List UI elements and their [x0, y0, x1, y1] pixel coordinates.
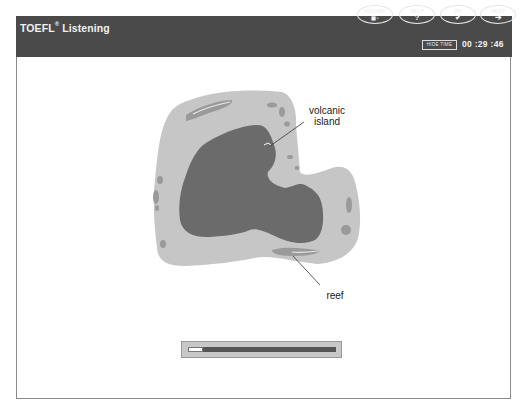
reef-label: reef	[320, 290, 350, 301]
audio-progress-bar	[181, 341, 342, 358]
progress-track	[188, 347, 336, 352]
progress-fill	[188, 347, 203, 352]
volcanic-island-label: volcanic island	[302, 105, 352, 127]
